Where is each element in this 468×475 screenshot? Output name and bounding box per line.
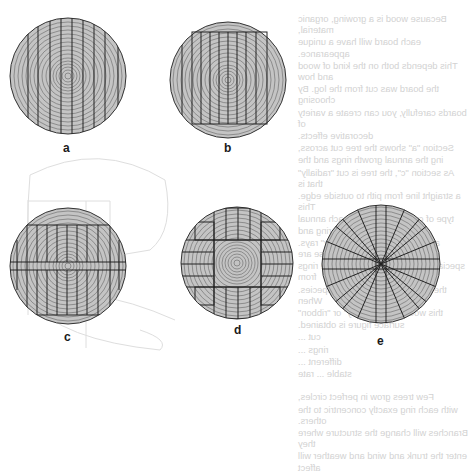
ghost-line: enter the trunk and wind and weather wil…: [298, 451, 468, 473]
diagram-c: c: [0, 208, 140, 344]
ghost-line: Few trees grow in perfect circles,: [298, 392, 468, 403]
ghost-line: Branches will change the structure where…: [298, 428, 468, 450]
diagram-e: e: [315, 200, 450, 348]
label-d: d: [234, 323, 241, 337]
label-b: b: [224, 141, 231, 155]
diagram-d: d: [180, 207, 295, 337]
diagram-a: a: [10, 0, 126, 155]
label-e: e: [377, 334, 384, 348]
label-c: c: [64, 330, 71, 344]
ghost-line: with each ring exactly concentric to the…: [298, 405, 468, 427]
ghost-line: stable ... rate: [298, 369, 468, 380]
label-a: a: [63, 141, 70, 155]
diagram-b: b: [170, 22, 286, 155]
